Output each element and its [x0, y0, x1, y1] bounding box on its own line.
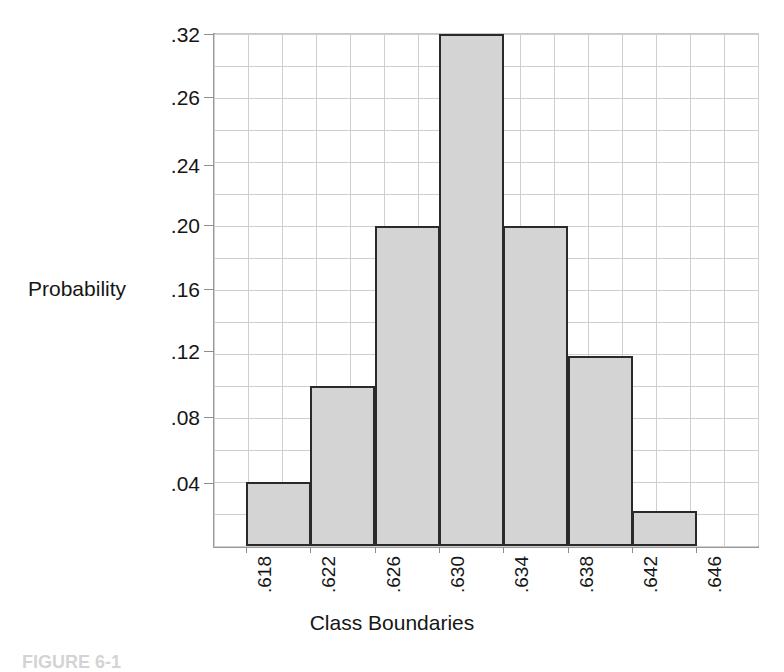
y-axis-tick-mark: [204, 97, 214, 98]
histogram-bar: [503, 226, 568, 546]
gridline-vertical: [724, 34, 725, 546]
x-axis-tick-mark: [375, 547, 376, 553]
figure-caption: FIGURE 6-1: [22, 652, 121, 672]
histogram-bar: [568, 356, 633, 546]
y-axis-tick-label: .08: [2, 407, 200, 428]
x-axis-tick-label: .626: [384, 556, 403, 593]
y-axis-tick-mark: [204, 165, 214, 166]
y-axis-tick-label: .26: [2, 87, 200, 108]
y-axis-tick-labels: .32.26.24.20.16.12.08.04: [0, 0, 200, 664]
gridline-vertical: [690, 34, 691, 546]
plot-area: [214, 34, 758, 546]
y-axis-tick-mark: [204, 289, 214, 290]
histogram-bar: [439, 34, 504, 546]
x-axis-tick-mark: [246, 547, 247, 553]
y-axis-tick-mark: [204, 34, 214, 35]
gridline-vertical: [656, 34, 657, 546]
y-axis-tick-label: .32: [2, 24, 200, 45]
gridline-vertical: [248, 34, 249, 546]
y-axis-tick-label: .04: [2, 473, 200, 494]
y-axis-tick-label: .16: [2, 279, 200, 300]
histogram-bar: [375, 226, 440, 546]
x-axis-tick-label: .638: [577, 556, 596, 593]
x-axis-title: Class Boundaries: [0, 612, 784, 634]
x-axis-tick-label: .618: [255, 556, 274, 593]
x-axis-line: [213, 546, 759, 548]
gridline-vertical: [282, 34, 283, 546]
x-axis-tick-mark: [310, 547, 311, 553]
x-axis-tick-mark: [632, 547, 633, 553]
y-axis-tick-mark: [204, 351, 214, 352]
x-axis-tick-mark: [439, 547, 440, 553]
y-axis-tick-label: .12: [2, 341, 200, 362]
x-axis-tick-label: .646: [705, 556, 724, 593]
y-axis-tick-label: .24: [2, 155, 200, 176]
x-axis-tick-mark: [696, 547, 697, 553]
gridline-vertical: [758, 34, 759, 546]
x-axis-tick-label: .630: [448, 556, 467, 593]
y-axis-tick-mark: [204, 483, 214, 484]
x-axis-tick-mark: [503, 547, 504, 553]
y-axis-tick-mark: [204, 225, 214, 226]
histogram-bar: [310, 386, 375, 546]
x-axis-tick-label: .634: [512, 556, 531, 593]
y-axis-tick-label: .20: [2, 215, 200, 236]
histogram-bar: [632, 511, 697, 546]
gridline-vertical: [214, 34, 215, 546]
x-axis-tick-label: .622: [319, 556, 338, 593]
x-axis-tick-label: .642: [641, 556, 660, 593]
x-axis-tick-mark: [568, 547, 569, 553]
histogram-bar: [246, 482, 311, 546]
y-axis-tick-mark: [204, 417, 214, 418]
